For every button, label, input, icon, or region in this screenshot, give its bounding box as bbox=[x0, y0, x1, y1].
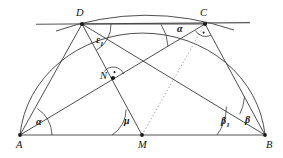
angle-label-beta-at-B: β bbox=[245, 115, 250, 125]
angle-label-alpha-at-C: α bbox=[177, 24, 183, 34]
vertex-dot-M bbox=[140, 133, 144, 137]
geometry-figure: A B M D C N α α ε1 μ β1 β bbox=[0, 0, 283, 158]
segment-AD bbox=[20, 24, 82, 135]
right-angle-dot-at-C bbox=[203, 31, 205, 33]
angle-label-mu-at-M: μ bbox=[124, 116, 130, 126]
angle-label-beta-1-subscript: 1 bbox=[226, 121, 230, 129]
vertex-dot-N bbox=[111, 76, 115, 80]
point-label-N: N bbox=[100, 71, 107, 82]
point-label-A: A bbox=[16, 140, 22, 151]
angle-label-epsilon-1-subscript: 1 bbox=[100, 40, 104, 48]
angle-label-alpha-at-A: α bbox=[36, 117, 42, 127]
segment-CB bbox=[205, 24, 265, 135]
geometry-canvas bbox=[0, 0, 283, 158]
point-label-D: D bbox=[76, 8, 84, 19]
vertex-dot-B bbox=[263, 133, 267, 137]
vertex-dot-A bbox=[18, 133, 22, 137]
point-label-B: B bbox=[266, 140, 272, 151]
point-label-C: C bbox=[200, 8, 207, 19]
vertex-dot-C bbox=[203, 22, 207, 26]
angle-label-beta-1-at-B: β1 bbox=[221, 116, 230, 129]
segment-DB bbox=[82, 24, 265, 135]
vertex-dot-D bbox=[80, 22, 84, 26]
angle-label-epsilon-1-at-D: ε1 bbox=[96, 35, 104, 48]
right-angle-dot-at-N bbox=[113, 71, 115, 73]
point-label-M: M bbox=[138, 140, 147, 151]
angle-arc-beta-at-B bbox=[240, 96, 245, 114]
